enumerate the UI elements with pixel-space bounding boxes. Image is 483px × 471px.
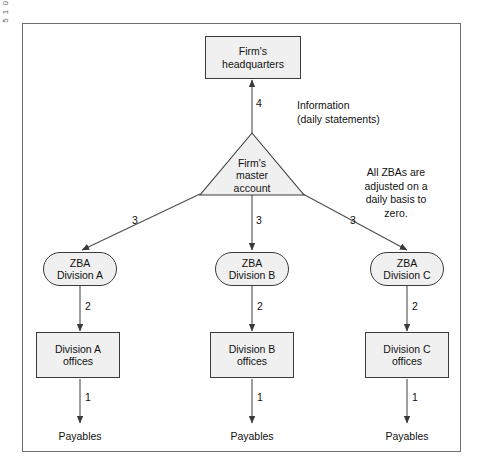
edge-label-master-to-zba-c: 3 (350, 214, 356, 226)
node-master-account: Firm'smasteraccount (198, 131, 306, 197)
annotation-information: Information(daily statements) (297, 99, 380, 126)
edge-label-offices-c-to-payables: 1 (412, 391, 418, 403)
node-division-c-offices: Division Coffices (365, 332, 449, 378)
node-headquarters-label: Firm'sheadquarters (222, 45, 284, 70)
zba-cash-concentration-diagram: 5 1 0 Firm'sheadquarters 4 Information(d… (0, 0, 483, 471)
annotation-zba-note: All ZBAs areadjusted on adaily basis toz… (340, 166, 452, 221)
edge-label-offices-a-to-payables: 1 (85, 391, 91, 403)
edge-label-zba-b-to-offices: 2 (257, 300, 263, 312)
node-division-b-offices-label: Division Boffices (229, 343, 276, 368)
node-zba-division-c: ZBADivision C (370, 252, 444, 286)
edge-label-offices-b-to-payables: 1 (257, 391, 263, 403)
node-division-a-offices-label: Division Aoffices (55, 343, 101, 368)
edge-label-hq-from-master: 4 (256, 97, 262, 109)
edge-label-zba-c-to-offices: 2 (412, 300, 418, 312)
node-payables-b: Payables (202, 430, 302, 442)
node-zba-division-b-label: ZBADivision B (229, 257, 276, 282)
node-payables-a: Payables (30, 430, 130, 442)
node-zba-division-a-label: ZBADivision A (57, 257, 103, 282)
node-zba-division-a: ZBADivision A (43, 252, 117, 286)
node-zba-division-b: ZBADivision B (215, 252, 289, 286)
node-division-c-offices-label: Division Coffices (383, 343, 430, 368)
node-headquarters: Firm'sheadquarters (205, 36, 301, 79)
node-master-account-label: Firm'smasteraccount (198, 157, 306, 194)
node-division-b-offices: Division Boffices (210, 332, 294, 378)
node-payables-c: Payables (357, 430, 457, 442)
node-division-a-offices: Division Aoffices (36, 332, 120, 378)
edge-label-master-to-zba-a: 3 (132, 214, 138, 226)
edge-label-zba-a-to-offices: 2 (85, 300, 91, 312)
edge-label-master-to-zba-b: 3 (256, 214, 262, 226)
node-zba-division-c-label: ZBADivision C (383, 257, 430, 282)
